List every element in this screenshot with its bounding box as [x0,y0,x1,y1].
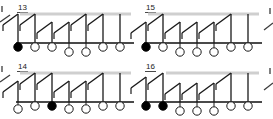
node-13-7[interactable] [116,43,124,51]
filled-node-14-3[interactable] [48,102,56,110]
filled-node-13-1[interactable] [14,43,22,51]
node-15-6[interactable] [227,43,235,51]
node-16-2[interactable] [159,102,167,110]
node-14-3[interactable] [48,102,56,110]
node-14-2[interactable] [31,102,39,110]
figure-canvas: 13151416 [0,0,273,119]
open-node-13-7[interactable] [116,43,124,51]
open-node-14-4[interactable] [65,105,73,113]
node-13-2[interactable] [31,43,39,51]
open-node-14-6[interactable] [99,102,107,110]
node-15-7[interactable] [244,43,252,51]
open-node-13-3[interactable] [48,43,56,51]
filled-node-16-2[interactable] [159,102,167,110]
open-node-14-5[interactable] [82,105,90,113]
open-node-15-5[interactable] [210,48,218,56]
open-node-16-6[interactable] [227,102,235,110]
open-node-13-2[interactable] [31,43,39,51]
open-node-14-1[interactable] [14,105,22,113]
open-node-16-5[interactable] [210,107,218,115]
node-16-7[interactable] [244,102,252,110]
node-13-1[interactable] [14,43,22,51]
node-16-1[interactable] [142,102,150,110]
open-node-13-6[interactable] [99,43,107,51]
open-node-16-7[interactable] [244,102,252,110]
node-16-6[interactable] [227,102,235,110]
node-13-3[interactable] [48,43,56,51]
panel-label-13: 13 [18,3,27,12]
open-node-16-4[interactable] [193,107,201,115]
filled-node-15-1[interactable] [142,43,150,51]
open-node-16-3[interactable] [176,107,184,115]
open-node-15-2[interactable] [159,43,167,51]
node-13-6[interactable] [99,43,107,51]
open-node-15-4[interactable] [193,48,201,56]
open-node-15-6[interactable] [227,43,235,51]
open-node-14-2[interactable] [31,102,39,110]
node-14-6[interactable] [99,102,107,110]
node-14-7[interactable] [116,102,124,110]
open-node-13-5[interactable] [82,48,90,56]
open-node-13-4[interactable] [65,48,73,56]
open-node-14-7[interactable] [116,102,124,110]
panel-label-16: 16 [146,62,155,71]
panel-label-14: 14 [18,62,27,71]
filled-node-16-1[interactable] [142,102,150,110]
open-node-15-7[interactable] [244,43,252,51]
node-15-1[interactable] [142,43,150,51]
node-15-2[interactable] [159,43,167,51]
open-node-15-3[interactable] [176,48,184,56]
panel-label-15: 15 [146,3,155,12]
